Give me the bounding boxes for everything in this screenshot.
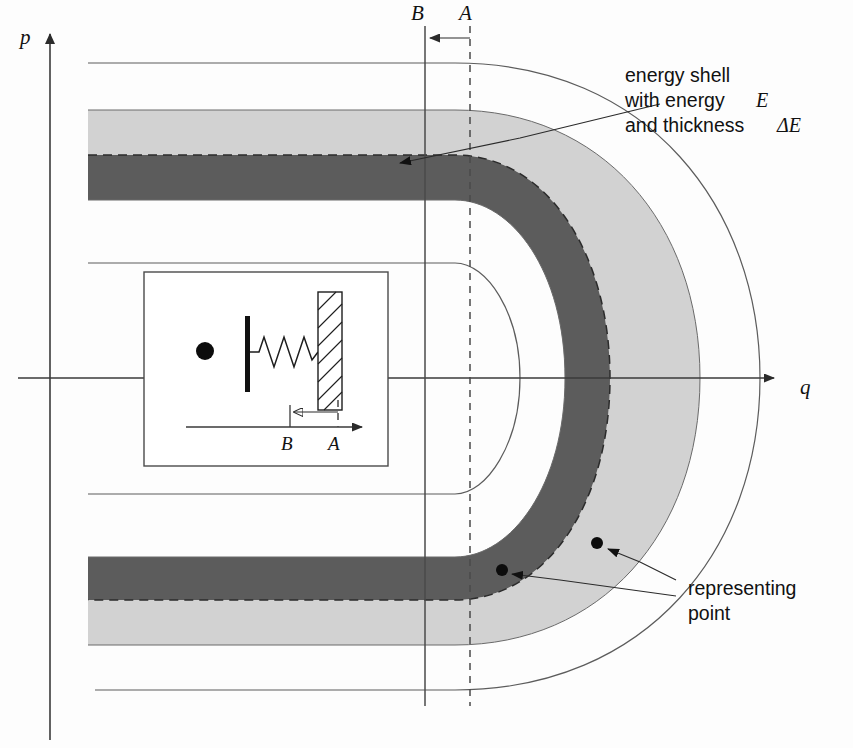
inset-fixed-wall [245,316,250,392]
wall-a-label: A [457,1,472,25]
energy-shell-math-1: E [755,89,768,111]
q-axis-label: q [800,375,811,399]
inset-movable-piston [318,292,342,410]
energy-shell-annotation: energy shell with energy E and thickness… [624,64,801,136]
representing-point-dot-1 [496,564,508,576]
energy-shell-line-2: with energy [624,89,725,111]
inset-oscillator-diagram: B A [144,272,388,466]
p-axis-label: p [18,25,31,49]
representing-point-line-2: point [688,602,731,624]
energy-shell-line-3: and thickness [625,114,744,136]
phase-space-diagram: p q B A [0,0,853,748]
inset-label-b: B [281,433,293,454]
inset-label-a: A [326,433,340,454]
wall-b-label: B [411,1,424,25]
representing-point-line-1: representing [688,577,796,599]
energy-shell-math-2: ΔE [776,114,801,136]
inset-particle-dot [196,342,214,360]
representing-point-annotation: representing point [688,577,796,624]
representing-point-dot-2 [591,537,603,549]
inset-box [144,272,388,466]
energy-shell-line-1: energy shell [625,64,730,86]
phase-space-figure: p q B A [0,0,853,748]
